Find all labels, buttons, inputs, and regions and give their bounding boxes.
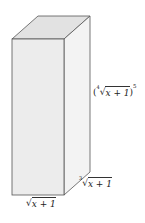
height-label: (4√x + 1)5 [93,87,137,97]
radical-icon: √ [26,198,32,208]
depth-label: 3√x + 1 [79,178,112,188]
prism-drawing [0,0,145,223]
width-label: √x + 1 [26,199,56,208]
side-face [64,16,90,195]
front-face [12,39,64,195]
